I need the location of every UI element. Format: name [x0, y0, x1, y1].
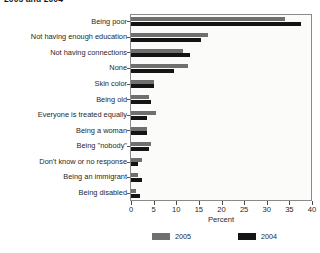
bar-2004-8	[131, 147, 149, 151]
bar-2005-5	[131, 95, 149, 99]
category-label: None	[0, 64, 127, 72]
x-axis-tick-label: 40	[308, 205, 316, 214]
bar-2004-4	[131, 84, 154, 88]
category-label: Being old	[0, 96, 127, 104]
bar-2004-1	[131, 38, 201, 42]
x-axis-tick-label: 35	[285, 205, 293, 214]
x-axis-tick-label: 25	[240, 205, 248, 214]
bar-2005-0	[131, 17, 285, 21]
bar-2005-6	[131, 111, 156, 115]
category-label: Don't know or no response	[0, 158, 127, 166]
bar-2004-11	[131, 194, 140, 198]
category-label: Being disabled	[0, 189, 127, 197]
legend-label: 2005	[175, 232, 191, 241]
bar-2004-7	[131, 131, 147, 135]
category-axis-labels: Being poorNot having enough educationNot…	[0, 14, 127, 201]
legend-item-2004[interactable]: 2004	[238, 230, 277, 242]
category-label: Being "nobody"	[0, 142, 127, 150]
category-label: Everyone is treated equally	[0, 111, 127, 119]
chart-title-clipped: 2005 and 2004	[4, 0, 204, 7]
x-axis-tick-label: 5	[152, 205, 156, 214]
bar-2005-11	[131, 189, 136, 193]
x-axis-title: Percent	[130, 215, 312, 224]
bar-2004-3	[131, 69, 174, 73]
bar-2005-2	[131, 49, 183, 53]
category-label: Not having connections	[0, 49, 127, 57]
legend-swatch-icon	[238, 233, 256, 240]
category-label: Being an immigrant	[0, 173, 127, 181]
category-label: Not having enough education	[0, 33, 127, 41]
bar-2005-9	[131, 158, 142, 162]
chart-title-text: 2005 and 2004	[4, 0, 63, 4]
x-axis-tick-label: 10	[172, 205, 180, 214]
bar-2005-10	[131, 173, 138, 177]
bar-2004-9	[131, 162, 138, 166]
category-label: Being a woman	[0, 127, 127, 135]
bar-chart: Being poorNot having enough educationNot…	[0, 8, 320, 253]
legend-swatch-icon	[152, 233, 170, 240]
bar-2005-7	[131, 127, 147, 131]
bar-2004-0	[131, 22, 301, 26]
category-label: Being poor	[0, 18, 127, 26]
legend-item-2005[interactable]: 2005	[152, 230, 191, 242]
bar-2004-10	[131, 178, 142, 182]
x-axis-tick-label: 15	[195, 205, 203, 214]
x-axis-tick-label: 20	[217, 205, 225, 214]
x-axis-tick-label: 0	[129, 205, 133, 214]
bar-2005-8	[131, 142, 151, 146]
chart-legend: 20052004	[130, 230, 312, 244]
bar-2004-2	[131, 53, 190, 57]
bar-2005-4	[131, 80, 154, 84]
legend-label: 2004	[261, 232, 277, 241]
category-label: Skin color	[0, 80, 127, 88]
bar-2005-3	[131, 64, 188, 68]
bar-2005-1	[131, 33, 208, 37]
bar-2004-5	[131, 100, 151, 104]
bar-2004-6	[131, 116, 147, 120]
x-axis-tick-label: 30	[263, 205, 271, 214]
bars-layer	[131, 14, 312, 201]
